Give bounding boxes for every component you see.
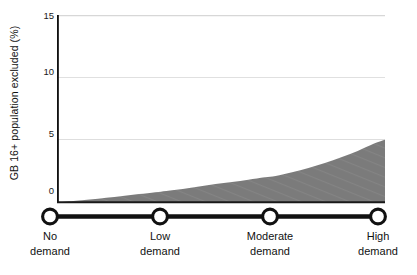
gridlines [57, 16, 385, 140]
y-axis-tick-labels: 15 10 5 0 [28, 0, 54, 215]
slider-label-high-demand: High demand [323, 229, 417, 259]
slider-handle-low-demand[interactable] [153, 209, 168, 224]
slider-handle-high-demand[interactable] [371, 209, 386, 224]
slider-label-moderate-demand: Moderate demand [215, 229, 325, 259]
slider-label-low-demand: Low demand [105, 229, 215, 259]
plot-canvas [57, 15, 385, 205]
slider-label-no-demand: No demand [0, 229, 105, 259]
plot-area [57, 15, 385, 203]
slider-handle-moderate-demand[interactable] [263, 209, 278, 224]
area-series-fill [57, 140, 385, 202]
y-axis-title-text: GB 16+ population excluded (%) [8, 25, 20, 179]
area-chart-figure: GB 16+ population excluded (%) 15 10 5 0 [0, 0, 417, 275]
y-tick-label-0: 0 [32, 186, 54, 196]
slider-tick-labels: No demand Low demand Moderate demand Hig… [0, 229, 417, 275]
demand-slider[interactable] [0, 205, 417, 229]
y-tick-label-10: 10 [32, 67, 54, 77]
y-axis-spine [57, 15, 58, 203]
slider-canvas[interactable] [0, 205, 417, 229]
y-tick-label-15: 15 [32, 11, 54, 21]
y-tick-label-5: 5 [32, 129, 54, 139]
y-axis-title: GB 16+ population excluded (%) [0, 0, 28, 205]
slider-handle-no-demand[interactable] [43, 209, 58, 224]
